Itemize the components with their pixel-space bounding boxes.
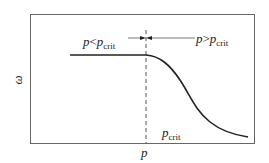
ref-sub: crit [103, 41, 115, 51]
sub: crit [169, 132, 181, 142]
relation: < [90, 34, 97, 49]
y-axis-label: ω [10, 75, 26, 84]
x-axis-label: p [141, 146, 148, 159]
relation: > [203, 31, 210, 46]
arrow-right-head [146, 36, 152, 40]
arrow-left-head [140, 36, 146, 40]
left-region-label: p<pcrit [83, 35, 115, 51]
ref-sub: crit [216, 38, 228, 48]
omega-curve [70, 55, 248, 137]
right-region-label: p>pcrit [196, 32, 228, 48]
crit-label: pcrit [162, 126, 181, 142]
diagram-canvas [0, 0, 269, 163]
